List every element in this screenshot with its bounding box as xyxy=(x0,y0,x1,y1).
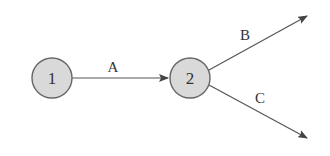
node-1-label: 1 xyxy=(48,69,57,88)
edge-b-label: B xyxy=(240,27,250,43)
edge-a-label: A xyxy=(108,59,119,75)
edge-a: A xyxy=(72,59,168,78)
flow-diagram: A B C 1 2 xyxy=(0,0,330,156)
edge-b-arrow xyxy=(209,16,307,70)
node-2-label: 2 xyxy=(186,69,195,88)
node-2: 2 xyxy=(170,58,210,98)
edge-c-label: C xyxy=(255,90,265,106)
node-1: 1 xyxy=(32,58,72,98)
edge-c: C xyxy=(209,85,307,138)
edge-b: B xyxy=(209,16,307,70)
